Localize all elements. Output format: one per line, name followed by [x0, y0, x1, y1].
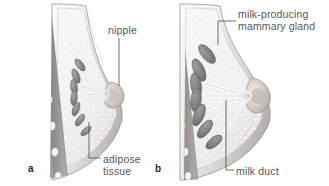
label-mammary-line1: milk-producing: [238, 8, 308, 20]
label-milk-duct: milk duct: [236, 165, 279, 177]
panel-letter-b: b: [155, 163, 161, 174]
panel-letter-a: a: [28, 163, 34, 174]
label-mammary-gland: milk-producingmammary gland: [238, 8, 315, 32]
label-nipple: nipple: [108, 24, 137, 36]
label-adipose-tissue: adiposetissue: [103, 153, 141, 177]
anatomy-figure: nipple adiposetissue milk-producingmamma…: [0, 0, 329, 186]
label-adipose-line1: adipose: [103, 153, 141, 165]
label-mammary-line2: mammary gland: [238, 20, 315, 32]
label-adipose-line2: tissue: [103, 165, 131, 177]
